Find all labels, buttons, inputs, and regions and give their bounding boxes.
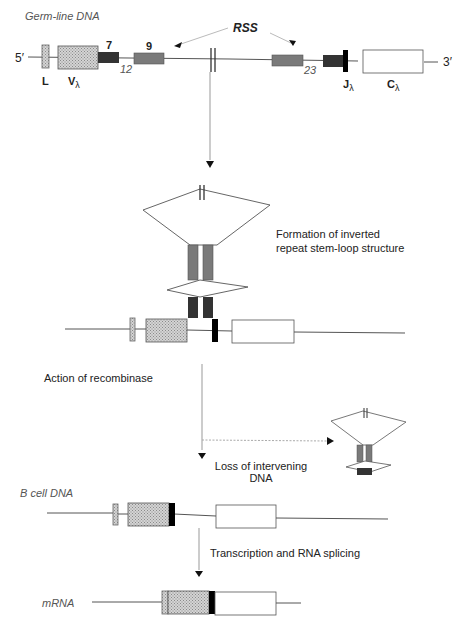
- germline-dna: [28, 28, 438, 168]
- three-prime-label: 3′: [443, 55, 452, 69]
- heptamer-23: [323, 55, 345, 67]
- c-lambda-label: Cλ: [387, 78, 399, 93]
- nonamer-23: [272, 55, 303, 66]
- v-segment: [58, 46, 98, 69]
- mrna-strand: [92, 591, 301, 615]
- c-segment: [363, 50, 423, 73]
- heptamer-pair-left: [188, 297, 198, 318]
- rss-label: RSS: [233, 21, 258, 35]
- transcription-caption: Transcription and RNA splicing: [210, 547, 360, 559]
- germline-label: Germ-line DNA: [25, 10, 100, 22]
- nonamer-12: [134, 53, 164, 64]
- stem-loop: [143, 185, 270, 318]
- heptamer-label: 7: [106, 39, 112, 51]
- spacer-12-label: 12: [120, 63, 132, 75]
- j-segment: [343, 50, 348, 72]
- nonamer-pair-right: [203, 245, 213, 280]
- nonamer-label: 9: [146, 40, 152, 52]
- nonamer-pair-left: [188, 245, 198, 280]
- mrna-label: mRNA: [42, 597, 74, 609]
- j-lambda-label: Jλ: [343, 78, 354, 93]
- bcell-dna: [47, 503, 388, 577]
- bcell-label: B cell DNA: [20, 487, 73, 499]
- heptamer-12: [98, 52, 119, 63]
- heptamer-pair-right: [203, 297, 213, 318]
- recombinase-caption: Action of recombinase: [44, 372, 153, 384]
- leader-label: L: [42, 75, 49, 87]
- v-lambda-label: Vλ: [68, 75, 80, 90]
- five-prime-label: 5′: [15, 51, 24, 65]
- leader-segment: [42, 45, 49, 68]
- stem-loop-caption-1: Formation of inverted: [276, 228, 380, 240]
- excision-caption: Loss of intervening DNA: [210, 460, 312, 484]
- recombination-diagram: [0, 0, 463, 627]
- spacer-23-label: 23: [304, 64, 316, 76]
- stem-loop-caption-2: repeat stem-loop structure: [276, 242, 404, 254]
